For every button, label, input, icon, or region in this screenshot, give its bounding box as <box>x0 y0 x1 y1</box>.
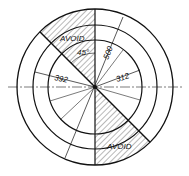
avoid-zone-lower <box>95 87 150 165</box>
dimension-312: 312 <box>115 71 131 84</box>
center-point <box>93 85 97 89</box>
dimension-392: 392 <box>54 73 69 85</box>
avoid-label-upper: AVOID <box>59 34 85 43</box>
zone-diagram: AVOID AVOID 45° 500 392 312 <box>0 0 189 176</box>
angle-label: 45° <box>77 48 90 57</box>
dimension-500: 500 <box>102 44 116 60</box>
avoid-label-lower: AVOID <box>106 142 132 151</box>
